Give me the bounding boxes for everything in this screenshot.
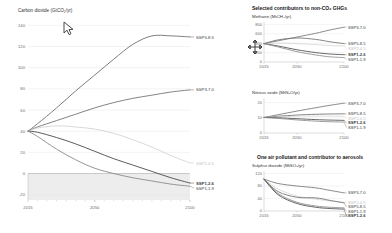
so2-chart-svg: 12080400201520502100 SSP3-7.0SSP2-4.5SSP… xyxy=(244,168,392,220)
co2-chart-title: Carbon dioxide (GtCO₂/yr) xyxy=(18,8,72,13)
x-tick-label: 2050 xyxy=(292,64,302,69)
y-tick-label: 0 xyxy=(23,171,26,176)
n2o-chart-svg: 20100201520502100 SSP3-7.0SSP5-8.5SSP2-4… xyxy=(244,95,392,143)
y-tick-label: 120 xyxy=(18,44,26,49)
y-tick-label: 80 xyxy=(20,86,25,91)
y-tick-label: 80 xyxy=(258,183,263,188)
series-label-ssp5-8.5: SSP5-8.5 xyxy=(196,35,215,40)
co2-y-tick-labels: 140120100806040200-20 xyxy=(18,23,26,197)
x-tick-label: 2100 xyxy=(339,135,349,140)
series-line-ssp3-7.0 xyxy=(264,103,344,117)
series-label-ssp3-7.0: SSP3-7.0 xyxy=(348,190,366,195)
x-tick-label: 2100 xyxy=(339,64,349,69)
x-tick-label: 2015 xyxy=(259,213,269,218)
y-tick-label: 100 xyxy=(18,65,26,70)
co2-chart-svg: 140120100806040200-20 201520502100 SSP5-… xyxy=(4,14,240,226)
series-label-ssp3-7.0: SSP3-7.0 xyxy=(348,25,366,30)
y-tick-label: 40 xyxy=(20,129,25,134)
series-label-ssp1-1.9: SSP1-1.9 xyxy=(348,57,366,62)
co2-x-tick-labels: 201520502100 xyxy=(23,205,195,210)
x-tick-label: 2050 xyxy=(292,135,302,140)
y-tick-label: 40 xyxy=(258,196,263,201)
series-label-ssp1-2.6: SSP1-2.6 xyxy=(348,213,366,218)
negative-emissions-band xyxy=(28,174,190,200)
co2-series-labels: SSP5-8.5SSP3-7.0SSP2-4.5SSP1-2.6SSP1-1.9 xyxy=(196,35,215,191)
non-co2-heading: Selected contributors to non-CO₂ GHGs xyxy=(252,5,347,11)
series-label-ssp3-7.0: SSP3-7.0 xyxy=(196,87,215,92)
figure-canvas: Carbon dioxide (GtCO₂/yr) 14012010080604… xyxy=(0,0,392,233)
series-line-ssp3-7.0 xyxy=(28,90,190,131)
co2-series-lines xyxy=(28,35,194,188)
x-tick-label: 2050 xyxy=(90,205,100,210)
y-tick-label: 140 xyxy=(18,23,26,28)
aerosol-heading: One air pollutant and contributor to aer… xyxy=(257,154,363,160)
y-tick-label: 800 xyxy=(255,22,262,27)
methane-chart-svg: 8006004002000201520502100 SSP3-7.0SSP5-8… xyxy=(244,19,392,71)
series-line-ssp5-8.5 xyxy=(28,35,190,131)
y-tick-label: 200 xyxy=(255,50,262,55)
series-label-ssp3-7.0: SSP3-7.0 xyxy=(348,101,366,106)
y-tick-label: 600 xyxy=(255,31,262,36)
x-tick-label: 2015 xyxy=(259,64,269,69)
series-line-ssp1-2.6 xyxy=(264,179,344,209)
series-label-ssp2-4.5: SSP2-4.5 xyxy=(196,161,215,166)
series-label-ssp2-4.5: SSP2-4.5 xyxy=(348,46,366,51)
x-tick-label: 2015 xyxy=(23,205,33,210)
y-tick-label: 20 xyxy=(20,150,25,155)
x-tick-label: 2050 xyxy=(292,213,302,218)
y-tick-label: 60 xyxy=(20,108,25,113)
y-tick-label: -20 xyxy=(19,192,26,197)
y-tick-label: 10 xyxy=(258,115,263,120)
non-co2-column: Selected contributors to non-CO₂ GHGs Me… xyxy=(244,2,392,233)
series-label-ssp1-1.9: SSP1-1.9 xyxy=(348,125,366,130)
co2-chart-panel: Carbon dioxide (GtCO₂/yr) 14012010080604… xyxy=(4,4,240,229)
x-tick-label: 2015 xyxy=(259,135,269,140)
x-tick-label: 2100 xyxy=(185,205,195,210)
y-tick-label: 400 xyxy=(255,41,262,46)
series-label-ssp1-1.9: SSP1-1.9 xyxy=(196,186,215,191)
y-tick-label: 120 xyxy=(255,171,262,176)
y-tick-label: 20 xyxy=(258,100,263,105)
series-line-ssp3-7.0 xyxy=(264,27,344,43)
